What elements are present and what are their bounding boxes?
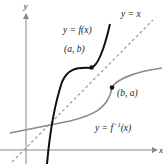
inverse-label-exponent: −1: [113, 121, 121, 128]
function-label-arg: (x): [81, 25, 92, 36]
inverse-label-prefix: y =: [94, 123, 110, 133]
point-b-a-marker: [110, 85, 115, 90]
point-a-b-marker: [89, 65, 94, 70]
identity-label: y = x: [120, 9, 141, 19]
inverse-function-curve: [10, 68, 162, 133]
point-b-a-label: (b, a): [117, 88, 138, 99]
x-axis-label: x: [158, 145, 163, 155]
inverse-function-label: y = f−1(x): [94, 121, 131, 134]
point-a-b-label: (a, b): [64, 44, 85, 55]
function-label: y = f(x): [62, 25, 92, 36]
identity-label-text: y = x: [120, 9, 141, 19]
inverse-function-diagram: y x y = x y = f(x) (a, b) (b, a) y = f−1…: [0, 0, 163, 164]
function-label-prefix: y =: [62, 25, 78, 35]
y-axis-label: y: [23, 1, 28, 11]
inverse-label-arg: (x): [121, 123, 132, 134]
